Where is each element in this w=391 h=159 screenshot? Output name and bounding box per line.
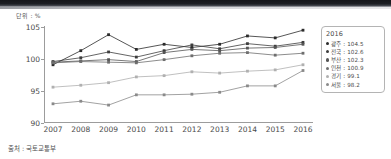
data-point-marker — [190, 93, 193, 96]
legend-item-label: 인천 : 100.9 — [331, 64, 363, 72]
series-line — [53, 44, 303, 62]
legend-item-서울: 서울 : 98.2 — [326, 80, 384, 88]
data-point-marker — [218, 43, 221, 46]
chart-plot-area — [44, 27, 312, 123]
data-point-marker — [246, 84, 249, 87]
legend-item-label: 광주 : 104.5 — [331, 40, 363, 48]
y-tick-mark — [41, 123, 44, 124]
data-point-marker — [302, 69, 305, 72]
data-point-marker — [246, 42, 249, 45]
data-point-marker — [135, 93, 138, 96]
series-경기 — [52, 63, 305, 88]
legend-marker-icon — [326, 75, 329, 78]
data-point-marker — [163, 43, 166, 46]
data-point-marker — [246, 70, 249, 73]
data-point-marker — [52, 86, 55, 89]
data-point-marker — [135, 76, 138, 79]
data-point-marker — [274, 84, 277, 87]
legend-item-label: 경기 : 99.1 — [331, 72, 360, 80]
series-전국 — [52, 41, 305, 63]
data-point-marker — [302, 63, 305, 66]
x-tick-label: 2015 — [266, 125, 285, 134]
data-point-marker — [246, 35, 249, 38]
data-point-marker — [107, 51, 110, 54]
data-point-marker — [218, 52, 221, 55]
chart-legend: 2016 광주 : 104.5전국 : 102.6부산 : 102.3인천 : … — [321, 26, 385, 93]
x-tick-label: 2009 — [99, 125, 118, 134]
legend-item-label: 서울 : 98.2 — [331, 81, 360, 89]
x-tick-label: 2008 — [71, 125, 90, 134]
y-axis-tick-labels: 9095100105 — [14, 27, 40, 123]
data-point-marker — [79, 49, 82, 52]
data-point-marker — [107, 104, 110, 107]
data-point-marker — [79, 56, 82, 59]
legend-item-광주: 광주 : 104.5 — [326, 40, 384, 48]
series-서울 — [52, 69, 305, 106]
legend-marker-icon — [326, 50, 329, 53]
data-point-marker — [190, 54, 193, 57]
data-point-marker — [163, 74, 166, 77]
legend-marker-icon — [326, 67, 329, 70]
x-tick-label: 2014 — [238, 125, 257, 134]
data-point-marker — [163, 51, 166, 54]
legend-item-부산: 부산 : 102.3 — [326, 56, 384, 64]
legend-item-경기: 경기 : 99.1 — [326, 72, 384, 80]
legend-item-전국: 전국 : 102.6 — [326, 48, 384, 56]
data-point-marker — [163, 58, 166, 61]
unit-label: 단위 : % — [16, 11, 41, 20]
data-point-marker — [190, 44, 193, 47]
x-tick-label: 2011 — [155, 125, 174, 134]
data-point-marker — [218, 49, 221, 52]
data-point-marker — [218, 91, 221, 94]
data-point-marker — [302, 52, 305, 55]
data-point-marker — [274, 68, 277, 71]
series-line — [53, 71, 303, 106]
data-point-marker — [163, 93, 166, 96]
legend-item-label: 부산 : 102.3 — [331, 56, 363, 64]
scan-artifact-bar — [0, 0, 391, 7]
data-point-marker — [135, 56, 138, 59]
series-line — [53, 53, 303, 63]
y-tick-label: 105 — [26, 23, 40, 32]
data-point-marker — [107, 81, 110, 84]
legend-rows: 광주 : 104.5전국 : 102.6부산 : 102.3인천 : 100.9… — [326, 40, 384, 89]
data-point-marker — [190, 70, 193, 73]
data-point-marker — [274, 36, 277, 39]
series-line — [53, 65, 303, 87]
data-point-marker — [52, 61, 55, 64]
data-point-marker — [135, 48, 138, 51]
source-note: 출처 : 국토교통부 — [8, 143, 56, 153]
data-point-marker — [246, 51, 249, 54]
legend-marker-icon — [326, 42, 329, 45]
legend-marker-icon — [326, 58, 329, 61]
x-axis-tick-labels: 2007200820092010201120122013201420152016 — [44, 125, 312, 137]
data-point-marker — [79, 84, 82, 87]
y-tick-label: 100 — [26, 55, 40, 64]
data-point-marker — [274, 46, 277, 49]
x-tick-label: 2016 — [293, 125, 312, 134]
data-point-marker — [107, 61, 110, 64]
series-인천 — [52, 51, 305, 64]
data-point-marker — [190, 48, 193, 51]
x-tick-label: 2012 — [182, 125, 201, 134]
data-point-marker — [79, 60, 82, 63]
x-tick-label: 2010 — [127, 125, 146, 134]
data-point-marker — [302, 43, 305, 46]
legend-item-인천: 인천 : 100.9 — [326, 64, 384, 72]
legend-marker-icon — [326, 83, 329, 86]
data-point-marker — [302, 29, 305, 32]
x-tick-label: 2013 — [210, 125, 229, 134]
legend-item-label: 전국 : 102.6 — [331, 48, 363, 56]
y-tick-label: 90 — [30, 119, 40, 128]
x-tick-label: 2007 — [43, 125, 62, 134]
legend-title: 2016 — [326, 30, 384, 38]
data-point-marker — [246, 47, 249, 50]
line-chart-svg — [44, 27, 312, 123]
data-point-marker — [107, 33, 110, 36]
data-point-marker — [52, 102, 55, 105]
data-point-marker — [218, 72, 221, 75]
data-point-marker — [107, 58, 110, 61]
data-point-marker — [135, 61, 138, 64]
data-point-marker — [274, 54, 277, 57]
y-tick-label: 95 — [30, 87, 40, 96]
